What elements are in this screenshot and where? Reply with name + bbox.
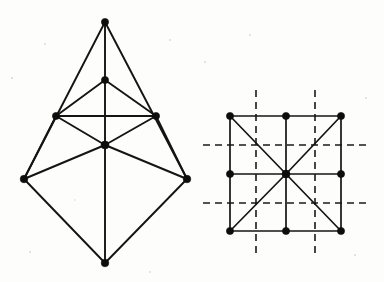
paper-speck xyxy=(44,43,46,45)
paper-speck xyxy=(149,271,151,273)
paper-speck xyxy=(29,251,31,253)
paper-speck xyxy=(354,254,356,256)
grid-mid-left xyxy=(226,170,233,177)
center xyxy=(101,141,109,149)
grid-mid-right xyxy=(337,170,344,177)
right-lower xyxy=(183,175,191,183)
paper-speck xyxy=(204,61,206,63)
apex-bottom xyxy=(101,259,109,267)
page-background xyxy=(0,0,384,282)
paper-speck xyxy=(169,39,171,41)
grid-bottom-left xyxy=(226,227,233,234)
paper-speck xyxy=(249,34,251,36)
grid-top-left xyxy=(226,112,233,119)
grid-center xyxy=(282,170,290,178)
grid-top-right xyxy=(337,112,344,119)
diagram-canvas xyxy=(0,0,384,282)
grid-bottom-center xyxy=(282,227,289,234)
left-upper-mid xyxy=(52,112,59,119)
right-upper-mid xyxy=(152,112,159,119)
upper-middle xyxy=(101,76,108,83)
grid-top-center xyxy=(282,112,289,119)
paper-speck xyxy=(365,97,367,99)
left-lower xyxy=(20,175,28,183)
paper-speck xyxy=(11,77,13,79)
grid-bottom-right xyxy=(337,227,344,234)
apex-top xyxy=(101,18,108,25)
paper-speck xyxy=(74,199,76,201)
